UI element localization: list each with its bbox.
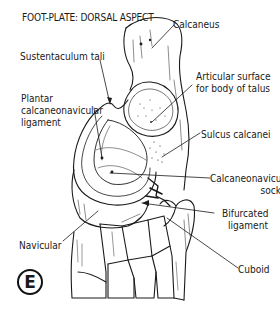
label-socket-line1: Calcaneonavicular (210, 172, 280, 184)
label-bifurcated-line2: ligament (222, 219, 268, 231)
label-bifurcated-ligament: Bifurcated ligament (222, 207, 268, 231)
label-articular-surface-line2: for body of talus (196, 82, 271, 94)
label-calcaneonavicular-socket: Calcaneonavicular socket (210, 172, 280, 196)
label-cuboid: Cuboid (238, 263, 270, 275)
leader-calcaneus (152, 25, 174, 48)
cuneiforms-and-metatarsals (71, 216, 184, 300)
label-plantar-line3: ligament (21, 116, 103, 128)
cuboid-bone (160, 200, 195, 300)
label-plantar-line2: calcaneonavicular (21, 104, 103, 116)
label-articular-surface: Articular surface for body of talus (196, 70, 271, 94)
label-sulcus-calcanei: Sulcus calcanei (201, 128, 271, 140)
label-navicular: Navicular (19, 239, 62, 251)
label-socket-line2: socket (210, 184, 280, 196)
leader-bifurcated (142, 203, 214, 213)
navicular-bone (72, 170, 148, 228)
panel-letter-badge: E (17, 269, 43, 295)
panel-letter: E (24, 274, 36, 291)
leader-socket (110, 173, 210, 178)
label-calcaneus: Calcaneus (173, 18, 220, 30)
leader-navicular (63, 211, 98, 241)
label-articular-surface-line1: Articular surface (196, 70, 271, 82)
label-plantar-calcaneonavicular-ligament: Plantar calcaneonavicular ligament (21, 92, 103, 128)
figure-title: FOOT-PLATE: DORSAL ASPECT (22, 11, 154, 23)
label-bifurcated-line1: Bifurcated (222, 207, 268, 219)
label-sustentaculum-tali: Sustentaculum tali (20, 50, 105, 62)
articular-surface (124, 82, 178, 136)
label-plantar-line1: Plantar (21, 92, 103, 104)
